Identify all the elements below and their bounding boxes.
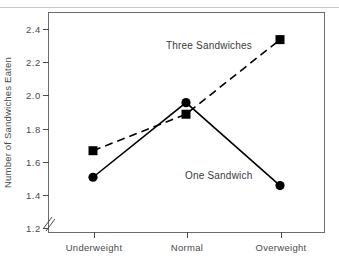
series-annotation-three-sandwiches: Three Sandwiches [166,40,252,51]
x-axis-tick-label: Normal [171,242,203,253]
x-axis-tick [281,232,282,238]
y-axis-tick [43,62,49,63]
y-axis-tick [43,195,49,196]
x-axis-tick [187,232,188,238]
top-divider [0,7,339,8]
y-axis-tick-label: 2.0 [26,90,41,101]
y-axis-tick [43,129,49,130]
x-axis-tick-label: Overweight [255,242,306,253]
y-axis-tick-label: 1.8 [26,123,41,134]
y-axis-tick-label: 1.2 [26,223,41,234]
y-axis-title: Number of Sandwiches Eaten [2,12,16,233]
x-axis-tick [94,232,95,238]
series-annotation-one-sandwich: One Sandwich [185,170,252,181]
y-axis-tick [43,29,49,30]
y-axis-tick-label: 1.6 [26,156,41,167]
y-axis-tick-label: 2.4 [26,24,41,35]
y-axis-tick-label: 2.2 [26,57,41,68]
y-axis-tick [43,95,49,96]
x-axis-tick-label: Underweight [66,242,123,253]
y-axis-break-icon [41,213,55,235]
chart-figure: Number of Sandwiches Eaten 2.42.22.01.81… [0,0,339,262]
y-axis-tick [43,162,49,163]
y-axis-tick-label: 1.4 [26,189,41,200]
